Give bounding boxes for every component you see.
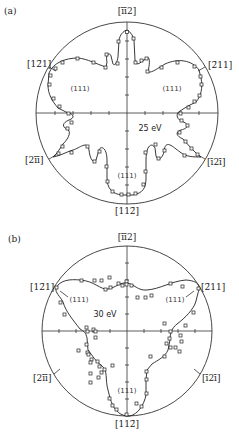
figure-canvas: (a) [īī2] [112̄]: [0, 0, 239, 439]
panel-b-label: (b): [8, 234, 21, 244]
panel-b-label-lower-right: [ī2ī]: [202, 373, 221, 383]
panel-a: (a) [īī2] [112̄]: [4, 6, 232, 216]
panel-b-label-top: [īī2]: [118, 232, 137, 242]
panel-b: (b) [īī2] [112̄]: [8, 232, 225, 429]
panel-b-leader-right: [186, 291, 194, 297]
panel-b-label-lower-left: [2īī]: [33, 373, 52, 383]
panel-a-energy-label: 25 eV: [138, 124, 162, 133]
panel-b-label-upper-right: [2̄11]: [201, 282, 225, 292]
panel-b-leader-left: [60, 291, 68, 297]
panel-a-label: (a): [4, 6, 16, 16]
panel-a-label-top: [īī2]: [118, 6, 137, 16]
panel-a-label-bottom: [112̄]: [115, 206, 139, 216]
panel-b-plane-bottom: (111): [118, 387, 137, 395]
panel-b-ll-marker: [54, 369, 60, 374]
panel-b-energy-label: 30 eV: [93, 310, 117, 319]
panel-a-label-lower-right: [ī2ī]: [207, 157, 226, 167]
panel-b-lr-marker: [194, 369, 200, 374]
panel-b-label-bottom: [112̄]: [115, 419, 139, 429]
panel-a-label-lower-left: [2īī]: [25, 155, 44, 165]
panel-a-label-upper-left: [12̄1]: [27, 59, 51, 69]
panel-a-plane-bottom: (111): [118, 172, 137, 180]
panel-b-label-upper-left: [12̄1]: [30, 282, 54, 292]
panel-b-plane-left: (111): [70, 296, 89, 304]
panel-a-plane-left: (111): [71, 85, 90, 93]
panel-a-label-upper-right: [2̄11]: [208, 60, 232, 70]
panel-a-plane-right: (111): [163, 85, 182, 93]
panel-b-plane-right: (111): [166, 296, 185, 304]
